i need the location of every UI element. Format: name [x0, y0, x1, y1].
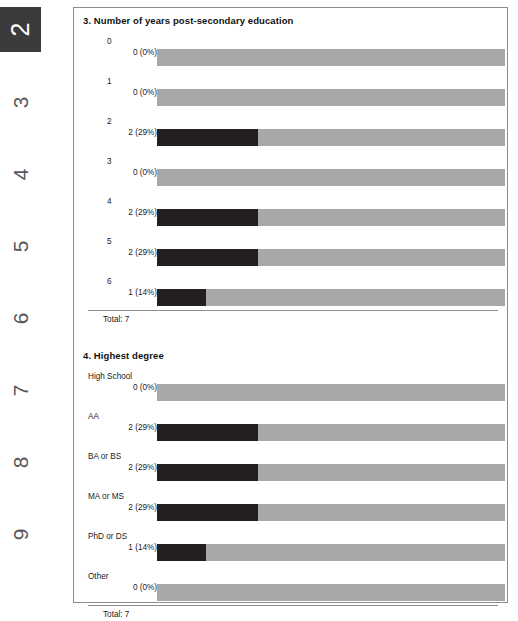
bar-value-label: 0 (0%): [133, 49, 157, 57]
page-tab-label: 9: [10, 528, 31, 540]
bar-row-labels: 61 (14%): [74, 278, 157, 310]
bar-fill: [157, 464, 258, 481]
bar-value-label: 2 (29%): [128, 504, 157, 512]
chart-block-years-post-secondary: 3. Number of years post-secondary educat…: [74, 8, 507, 324]
bar-value-label: 2 (29%): [128, 424, 157, 432]
bar-row-labels: 42 (29%): [74, 198, 157, 230]
bar-row-labels: 30 (0%): [74, 158, 157, 190]
page-tab-label: 2: [8, 23, 33, 37]
total-separator-2: [88, 605, 498, 606]
bar-row-labels: AA2 (29%): [74, 413, 157, 445]
total-label-highest-degree: Total: 7: [74, 606, 507, 619]
bar-row-labels: PhD or DS1 (14%): [74, 533, 157, 565]
bar-row: 10 (0%): [74, 70, 507, 110]
bar-row: 52 (29%): [74, 230, 507, 270]
bar-track: [157, 249, 505, 266]
chart-title-highest-degree: 4. Highest degree: [74, 350, 507, 361]
bar-fill: [157, 289, 206, 306]
bar-rows-years-post-secondary: 00 (0%)10 (0%)22 (29%)30 (0%)42 (29%)52 …: [74, 30, 507, 310]
bar-row: 42 (29%): [74, 190, 507, 230]
bar-fill: [157, 544, 206, 561]
bar-track: [157, 464, 505, 481]
bar-row: 61 (14%): [74, 270, 507, 310]
page-tab-7[interactable]: 7: [0, 367, 41, 413]
bar-category-label: PhD or DS: [88, 533, 127, 541]
bar-row-labels: 10 (0%): [74, 78, 157, 110]
bar-value-label: 2 (29%): [128, 209, 157, 217]
bar-track: [157, 169, 505, 186]
bar-row: Other0 (0%): [74, 565, 507, 605]
page-number-rail: 23456789: [0, 0, 68, 621]
bar-value-label: 1 (14%): [128, 289, 157, 297]
bar-row-labels: 22 (29%): [74, 118, 157, 150]
page-tab-label: 7: [10, 384, 31, 396]
page-tab-4[interactable]: 4: [0, 151, 41, 197]
bar-fill: [157, 424, 258, 441]
bar-value-label: 0 (0%): [133, 169, 157, 177]
page-tab-9[interactable]: 9: [0, 511, 41, 557]
bar-row-labels: MA or MS2 (29%): [74, 493, 157, 525]
chart-block-highest-degree: 4. Highest degree High School0 (0%)AA2 (…: [74, 324, 507, 619]
bar-category-label: High School: [88, 373, 132, 381]
page-tab-label: 3: [10, 96, 31, 108]
bar-category-label: 5: [107, 238, 112, 246]
bar-row: MA or MS2 (29%): [74, 485, 507, 525]
bar-row: PhD or DS1 (14%): [74, 525, 507, 565]
page-tab-label: 4: [10, 168, 31, 180]
bar-category-label: BA or BS: [88, 453, 121, 461]
bar-track: [157, 384, 505, 401]
bar-track: [157, 504, 505, 521]
chart-title-years-post-secondary: 3. Number of years post-secondary educat…: [74, 15, 507, 26]
bar-value-label: 0 (0%): [133, 584, 157, 592]
page-tab-6[interactable]: 6: [0, 295, 41, 341]
bar-fill: [157, 209, 258, 226]
bar-category-label: 1: [107, 78, 112, 86]
bar-fill: [157, 129, 258, 146]
bar-category-label: MA or MS: [88, 493, 124, 501]
bar-track: [157, 289, 505, 306]
page-tab-3[interactable]: 3: [0, 79, 41, 125]
bar-fill: [157, 249, 258, 266]
bar-fill: [157, 504, 258, 521]
bar-row: High School0 (0%): [74, 365, 507, 405]
bar-category-label: 6: [107, 278, 112, 286]
bar-value-label: 1 (14%): [128, 544, 157, 552]
bar-row: BA or BS2 (29%): [74, 445, 507, 485]
page-tab-5[interactable]: 5: [0, 223, 41, 269]
bar-row-labels: 52 (29%): [74, 238, 157, 270]
bar-track: [157, 584, 505, 601]
bar-row: AA2 (29%): [74, 405, 507, 445]
bar-value-label: 0 (0%): [133, 384, 157, 392]
bar-category-label: AA: [88, 413, 99, 421]
bar-track: [157, 89, 505, 106]
bar-row-labels: Other0 (0%): [74, 573, 157, 605]
page-tab-label: 6: [10, 312, 31, 324]
page-tab-label: 5: [10, 240, 31, 252]
bar-category-label: Other: [88, 573, 108, 581]
bar-track: [157, 209, 505, 226]
bar-category-label: 0: [107, 38, 112, 46]
bar-row-labels: 00 (0%): [74, 38, 157, 70]
page-tab-8[interactable]: 8: [0, 439, 41, 485]
bar-track: [157, 129, 505, 146]
bar-row-labels: High School0 (0%): [74, 373, 157, 405]
total-separator-1: [88, 310, 498, 311]
bar-track: [157, 424, 505, 441]
bar-value-label: 2 (29%): [128, 129, 157, 137]
page-tab-2[interactable]: 2: [0, 7, 41, 52]
total-label-years-post-secondary: Total: 7: [74, 311, 507, 324]
bar-category-label: 2: [107, 118, 112, 126]
bar-rows-highest-degree: High School0 (0%)AA2 (29%)BA or BS2 (29%…: [74, 365, 507, 605]
survey-results-panel: 3. Number of years post-secondary educat…: [73, 7, 508, 603]
bar-category-label: 3: [107, 158, 112, 166]
bar-row: 30 (0%): [74, 150, 507, 190]
bar-row: 22 (29%): [74, 110, 507, 150]
bar-value-label: 2 (29%): [128, 249, 157, 257]
bar-row-labels: BA or BS2 (29%): [74, 453, 157, 485]
bar-value-label: 2 (29%): [128, 464, 157, 472]
bar-track: [157, 544, 505, 561]
page-tab-label: 8: [10, 456, 31, 468]
bar-value-label: 0 (0%): [133, 89, 157, 97]
bar-row: 00 (0%): [74, 30, 507, 70]
bar-track: [157, 49, 505, 66]
